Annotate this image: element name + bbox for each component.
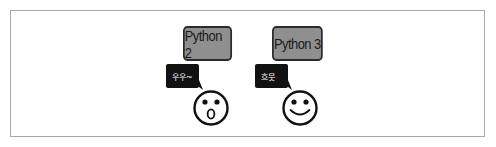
python3-speech-text: 흐뭇 (261, 71, 275, 82)
diagram-frame (10, 10, 485, 137)
smiling-face-icon (281, 86, 319, 130)
python3-label-box: Python 3 (272, 26, 323, 61)
python3-label: Python 3 (274, 35, 321, 52)
surprised-face-icon (192, 86, 230, 130)
python2-label-box: Python 2 (183, 26, 232, 61)
python2-label: Python 2 (185, 27, 231, 61)
